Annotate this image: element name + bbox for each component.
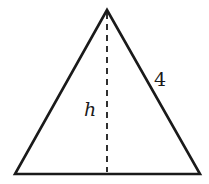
triangle-diagram: h 4	[0, 0, 209, 184]
side-length-label: 4	[154, 68, 166, 90]
altitude-label: h	[84, 98, 96, 120]
